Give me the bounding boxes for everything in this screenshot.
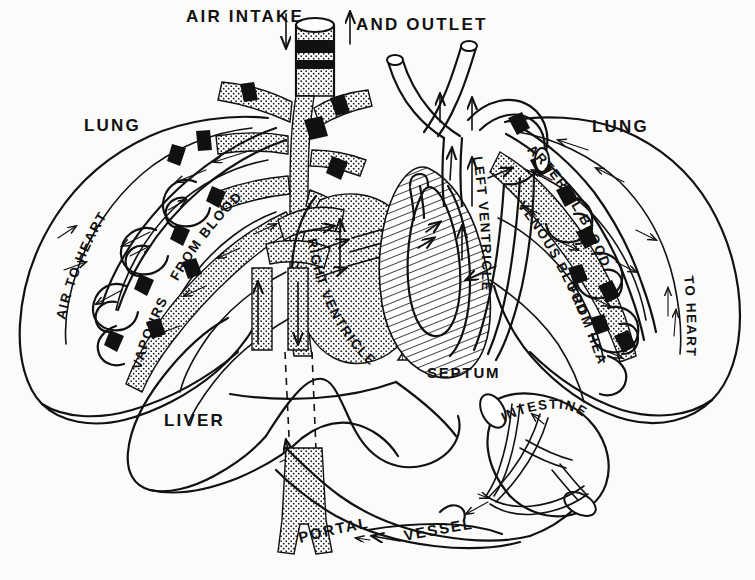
diagram-canvas: AIR INTAKE AND OUTLET LUNG LUNG AIR TO H… xyxy=(0,0,755,580)
label-lung-left: LUNG xyxy=(84,116,141,135)
label-lung-right: LUNG xyxy=(592,117,649,136)
label-and-outlet: AND OUTLET xyxy=(356,15,488,34)
label-septum: SEPTUM xyxy=(427,364,500,381)
label-air-intake: AIR INTAKE xyxy=(186,7,304,26)
label-liver: LIVER xyxy=(164,411,225,430)
anatomical-diagram: AIR INTAKE AND OUTLET LUNG LUNG AIR TO H… xyxy=(0,0,755,580)
